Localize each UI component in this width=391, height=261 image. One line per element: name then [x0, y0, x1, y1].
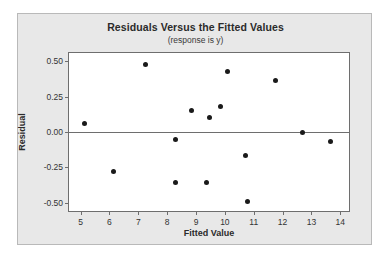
x-axis-tick-label: 7: [136, 217, 141, 227]
data-point: [204, 180, 209, 185]
data-point: [225, 69, 230, 74]
figure-canvas: Residuals Versus the Fitted Values (resp…: [0, 0, 391, 261]
y-axis-title: Residual: [17, 113, 27, 151]
y-axis-tick: [65, 203, 69, 204]
y-axis-tick-label: 0.00: [46, 127, 63, 137]
chart-title: Residuals Versus the Fitted Values: [0, 21, 391, 33]
data-point: [173, 137, 178, 142]
y-axis-tick-label: -0.50: [44, 198, 63, 208]
data-point: [173, 180, 178, 185]
data-point: [243, 153, 248, 158]
y-axis-tick-label: 0.25: [46, 92, 63, 102]
x-axis-tick: [283, 211, 284, 215]
x-axis-tick-label: 12: [278, 217, 287, 227]
x-axis-title: Fitted Value: [184, 228, 235, 238]
y-axis-tick: [65, 167, 69, 168]
x-axis-tick-label: 13: [307, 217, 316, 227]
x-axis-tick: [225, 211, 226, 215]
data-point: [111, 169, 116, 174]
zero-reference-line: [69, 132, 349, 133]
x-axis-tick: [196, 211, 197, 215]
x-axis-tick: [81, 211, 82, 215]
x-axis-tick-label: 9: [194, 217, 199, 227]
data-point: [245, 199, 250, 204]
x-axis-tick: [340, 211, 341, 215]
x-axis-tick: [167, 211, 168, 215]
plot-area: 0.500.250.00-0.25-0.50567891011121314: [68, 52, 350, 212]
x-axis-tick-label: 14: [336, 217, 345, 227]
data-point: [300, 130, 305, 135]
chart-subtitle: (response is y): [0, 35, 391, 45]
x-axis-tick-label: 8: [165, 217, 170, 227]
x-axis-tick: [311, 211, 312, 215]
y-axis-tick: [65, 97, 69, 98]
data-point: [82, 121, 87, 126]
x-axis-tick-label: 10: [220, 217, 229, 227]
data-point: [218, 104, 223, 109]
x-axis-tick: [254, 211, 255, 215]
data-point: [143, 62, 148, 67]
y-axis-tick-label: 0.50: [46, 56, 63, 66]
y-axis-tick: [65, 61, 69, 62]
y-axis-tick: [65, 132, 69, 133]
data-point: [273, 78, 278, 83]
x-axis-tick-label: 5: [78, 217, 83, 227]
x-axis-tick-label: 6: [107, 217, 112, 227]
x-axis-tick: [138, 211, 139, 215]
data-point: [328, 139, 333, 144]
data-point: [189, 108, 194, 113]
x-axis-tick: [109, 211, 110, 215]
data-point: [207, 115, 212, 120]
y-axis-tick-label: -0.25: [44, 162, 63, 172]
x-axis-tick-label: 11: [249, 217, 258, 227]
